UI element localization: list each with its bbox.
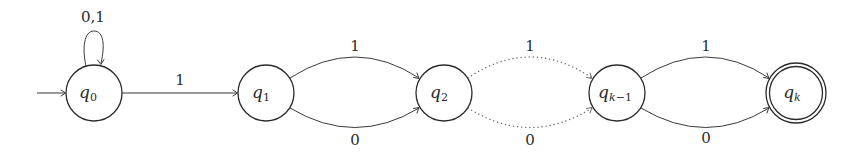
edge-label-q1-q2-bottom: 0	[350, 131, 360, 149]
edge-label-qk1-qk-bottom: 0	[701, 129, 711, 147]
state-label-qk-base: q	[783, 82, 794, 102]
state-label-q1-base: q	[252, 82, 263, 102]
state-label-qk1-sub-rest: −1	[616, 91, 632, 104]
edge-label-q2-qk1-top: 1	[525, 37, 535, 55]
edge-q0-q1: 1	[122, 71, 238, 96]
edge-label-qk1-qk-top: 1	[701, 37, 711, 55]
self-loop-q0: 0,1	[81, 8, 105, 66]
state-label-q1-sub: 1	[263, 91, 270, 104]
edge-label-q0-q1: 1	[175, 71, 185, 89]
state-q2: q2	[416, 65, 472, 121]
state-q1: q1	[238, 65, 294, 121]
edge-q1-q2-bottom: 0	[290, 108, 419, 150]
edge-label-loop-q0: 0,1	[81, 8, 105, 26]
edge-q2-qk1-bottom: 0	[468, 108, 592, 150]
state-label-q0-sub: 0	[90, 91, 97, 104]
edge-q1-q2-top: 1	[290, 37, 419, 79]
edge-label-q1-q2-top: 1	[350, 37, 360, 55]
edge-qk1-qk-top: 1	[641, 37, 769, 79]
state-qk-minus-1: qk−1	[589, 65, 645, 121]
edge-label-q2-qk1-bottom: 0	[525, 131, 535, 149]
automaton-diagram: 0,1 1 1 0 1 0 1 0	[0, 0, 859, 152]
state-label-q0-base: q	[79, 82, 90, 102]
state-label-qk1-base: q	[598, 82, 609, 102]
state-q0: q0	[66, 65, 122, 121]
state-label-q2-base: q	[430, 82, 441, 102]
edge-qk1-qk-bottom: 0	[641, 108, 769, 148]
edge-q2-qk1-top: 1	[468, 37, 592, 79]
state-label-qk-sub: k	[794, 91, 801, 104]
state-qk-accepting: qk	[766, 63, 826, 123]
initial-arrow	[37, 90, 66, 96]
state-label-q2-sub: 2	[441, 91, 448, 104]
